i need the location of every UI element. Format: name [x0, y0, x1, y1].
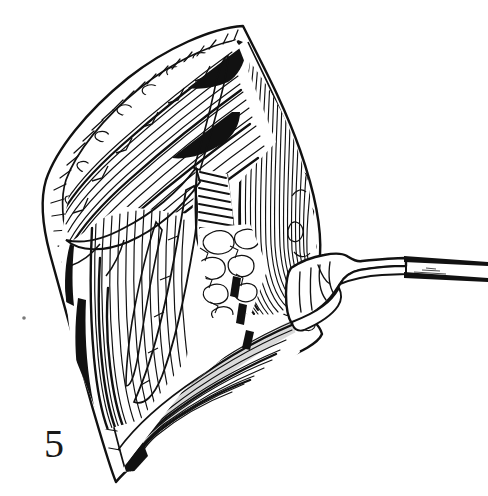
scan-speck [22, 316, 26, 320]
figure-number-label: 5 [44, 424, 64, 464]
surgical-illustration [0, 0, 488, 496]
figure-canvas: 5 [0, 0, 488, 496]
